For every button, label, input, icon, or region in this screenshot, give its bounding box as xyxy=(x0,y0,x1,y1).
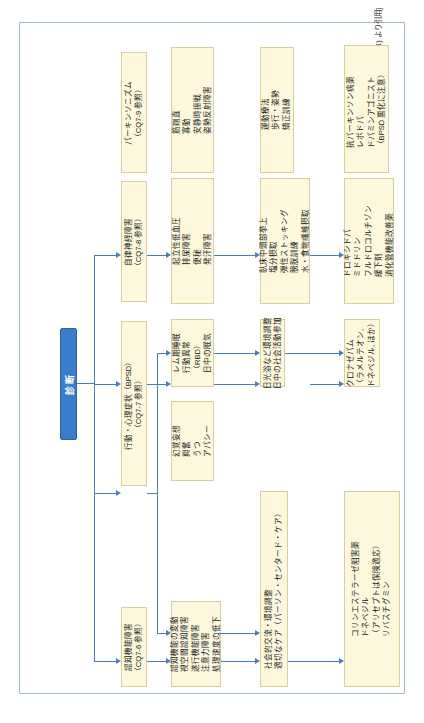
conn-cognitive-2 xyxy=(221,661,255,662)
box-bpsd-rbd-features[interactable]: レム期睡眠 行動異常 （RBD） 日中の眠気 xyxy=(171,319,214,387)
box-autonomic-nondrug[interactable]: 臥床中頭部挙上 塩分摂取 弾性ストッキング 膀胱訓練 水・食物繊維摂取 xyxy=(260,178,310,304)
conn-bpsd-b xyxy=(157,633,166,634)
box-bpsd-psych-features-text: 幻覚妄想 興奮 うつ アパシー xyxy=(172,425,214,457)
bpsd-split-vertical xyxy=(157,353,158,633)
bpsd-split-stub xyxy=(147,493,157,494)
box-autonomic-symptom[interactable]: 自律神経障害 （CQ7-8 参照） xyxy=(121,181,147,302)
box-parkinsonism-symptom[interactable]: パーキンソニズム （CQ7-9 参照） xyxy=(121,52,147,173)
box-cognitive-nondrug-text: 社会的交流・環境調整 適切なケア（パーソン・センタード・ケア） xyxy=(264,509,285,669)
box-autonomic-features-text: 起立性低血圧 排尿障害 便秘 発汗障害 xyxy=(172,217,214,265)
conn-cognitive-3 xyxy=(288,661,339,662)
box-bpsd-symptom[interactable]: 行動・心理症状（BPSD） （CQ7-7 参照） xyxy=(121,321,147,486)
conn-bpsd-a xyxy=(157,353,166,354)
box-cognitive-features[interactable]: 認知機能の変動 視空間認知障害 遂行機能障害 注意力障害 処理速度の低下 xyxy=(171,601,221,687)
trunk-vertical xyxy=(94,255,95,661)
box-bpsd-rbd-nondrug-text: 日光浴など環境調整 日中の社会活動参加 xyxy=(262,317,283,389)
conn-parkinsonism-1 xyxy=(147,255,166,256)
box-parkinsonism-features-text: 筋剛直 寡動 安静時振戦 姿勢反射障害 xyxy=(172,86,214,134)
box-autonomic-symptom-text: 自律神経障害 （CQ7-8 参照） xyxy=(124,213,145,269)
box-bpsd-rbd-features-text: レム期睡眠 行動異常 （RBD） 日中の眠気 xyxy=(172,333,214,373)
box-autonomic-features[interactable]: 起立性低血圧 排尿障害 便秘 発汗障害 xyxy=(171,178,214,304)
conn-autonomic-2 xyxy=(214,384,255,385)
arrow-bpsd-symptom xyxy=(116,490,121,496)
conn-bpsd-b-merge xyxy=(214,633,255,634)
box-cognitive-symptom-text: 認知機能障害 （CQ7-6 参照） xyxy=(124,619,145,675)
figure-panel: [文献 1) より引用] 診断 パーキンソニズム （CQ7-9 参照） 筋剛直 … xyxy=(19,22,405,694)
box-cognitive-drug[interactable]: コリンエステラーゼ阻害薬 ドネペジル （アリセプトは保険適応） リバスチグミン xyxy=(344,491,400,687)
box-cognitive-nondrug[interactable]: 社会的交流・環境調整 適切なケア（パーソン・センタード・ケア） xyxy=(260,491,288,687)
conn-bpsd-a-2 xyxy=(214,353,255,354)
box-cognitive-features-text: 認知機能の変動 視空間認知障害 遂行機能障害 注意力障害 処理速度の低下 xyxy=(170,616,222,672)
arrow-bpsd-b-nondrug xyxy=(255,630,260,636)
box-bpsd-rbd-drug-text: クロナゼパム （ラメルテオン, ドネペジル, ほか） xyxy=(346,319,377,387)
diagnosis-node-label: 診断 xyxy=(62,373,75,395)
trunk-stub xyxy=(77,383,94,384)
branch-cognitive xyxy=(94,661,116,662)
branch-parkinsonism xyxy=(94,255,116,256)
box-cognitive-drug-text: コリンエステラーゼ阻害薬 ドネペジル （アリセプトは保険適応） リバスチグミン xyxy=(351,541,393,637)
conn-bpsd-a-3 xyxy=(285,353,339,354)
box-parkinsonism-symptom-text: パーキンソニズム （CQ7-9 参照） xyxy=(124,81,145,145)
box-parkinsonism-features[interactable]: 筋剛直 寡動 安静時振戦 姿勢反射障害 xyxy=(171,47,214,173)
conn-autonomic-3 xyxy=(310,384,339,385)
box-autonomic-drug-text: ドロキシドパ ミドドリン フルドロコルチゾン 緩下剤 消化管機能改善薬 xyxy=(343,205,395,277)
box-cognitive-symptom[interactable]: 認知機能障害 （CQ7-6 参照） xyxy=(121,607,147,687)
box-autonomic-nondrug-text: 臥床中頭部挙上 塩分摂取 弾性ストッキング 膀胱訓練 水・食物繊維摂取 xyxy=(259,209,311,273)
diagnosis-node[interactable]: 診断 xyxy=(60,328,77,440)
conn-parkinsonism-2 xyxy=(214,255,255,256)
conn-cognitive-1 xyxy=(147,661,166,662)
branch-bpsd xyxy=(94,493,116,494)
box-autonomic-drug[interactable]: ドロキシドパ ミドドリン フルドロコルチゾン 緩下剤 消化管機能改善薬 xyxy=(344,178,394,304)
box-bpsd-psych-features[interactable]: 幻覚妄想 興奮 うつ アパシー xyxy=(171,401,214,481)
box-bpsd-rbd-nondrug[interactable]: 日光浴など環境調整 日中の社会活動参加 xyxy=(260,319,285,387)
box-parkinsonism-nondrug-text: 運動療法 歩行・姿勢 矯正訓練 xyxy=(261,90,292,130)
box-bpsd-symptom-text: 行動・心理症状（BPSD） （CQ7-7 参照） xyxy=(124,357,145,450)
box-parkinsonism-nondrug[interactable]: 運動療法 歩行・姿勢 矯正訓練 xyxy=(260,47,294,173)
branch-autonomic xyxy=(94,384,116,385)
box-parkinsonism-drug[interactable]: 抗パーキンソン病薬 レボドパ ドパミンアゴニスト （BPSD 悪化に注意） xyxy=(344,45,389,173)
box-parkinsonism-drug-text: 抗パーキンソン病薬 レボドパ ドパミンアゴニスト （BPSD 悪化に注意） xyxy=(346,70,388,149)
box-bpsd-rbd-drug[interactable]: クロナゼパム （ラメルテオン, ドネペジル, ほか） xyxy=(344,319,380,387)
